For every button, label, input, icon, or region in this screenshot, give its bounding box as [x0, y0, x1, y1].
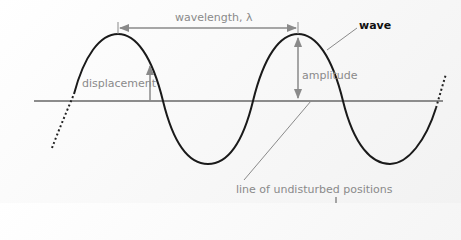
equilibrium-leader-line [244, 101, 311, 180]
wavelength-label: wavelength, λ [175, 11, 253, 24]
amplitude-label: amplitude [302, 69, 358, 82]
wave-diagram: wavelength, λ displacement amplitude wav… [0, 0, 461, 203]
equilibrium-label: line of undisturbed positions [236, 183, 393, 196]
wave-leader-line [327, 28, 357, 50]
wave-label: wave [359, 19, 391, 32]
wave-curve [74, 34, 436, 164]
wave-dotted-start [52, 94, 74, 148]
wave-dotted-end [436, 74, 446, 108]
displacement-label: displacement [82, 77, 157, 90]
